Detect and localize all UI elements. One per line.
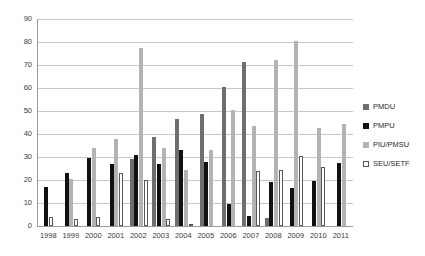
bar-chart: 0102030405060708090 19981999200020012002… (0, 0, 425, 256)
y-axis-tick-label: 30 (2, 153, 32, 161)
legend-item-label: SEU/SETF (373, 160, 410, 168)
legend-item: SEU/SETF (363, 156, 425, 171)
legend-swatch-icon (363, 123, 369, 129)
y-axis-tick-label: 70 (2, 61, 32, 69)
legend-item: PIU/PMSU (363, 137, 425, 152)
y-axis-tick-label: 80 (2, 38, 32, 46)
y-axis-tick-label: 90 (2, 15, 32, 23)
y-axis-tick-label: 40 (2, 130, 32, 138)
legend-swatch-icon (363, 161, 369, 167)
legend-item: PMDU (363, 99, 425, 114)
y-axis-tick-label: 60 (2, 84, 32, 92)
legend-swatch-icon (363, 104, 369, 110)
y-axis-tick-label: 50 (2, 107, 32, 115)
x-axis-tick-label: 2011 (326, 232, 356, 240)
y-axis: 0102030405060708090 (0, 0, 425, 256)
y-axis-tick-label: 0 (2, 222, 32, 230)
legend-item-label: PIU/PMSU (373, 141, 409, 149)
legend-item-label: PMPU (373, 122, 395, 130)
y-axis-tick-label: 20 (2, 176, 32, 184)
legend-item-label: PMDU (373, 103, 395, 111)
chart-legend: PMDUPMPUPIU/PMSUSEU/SETF (363, 99, 425, 175)
legend-item: PMPU (363, 118, 425, 133)
y-axis-tick-label: 10 (2, 199, 32, 207)
legend-swatch-icon (363, 142, 369, 148)
